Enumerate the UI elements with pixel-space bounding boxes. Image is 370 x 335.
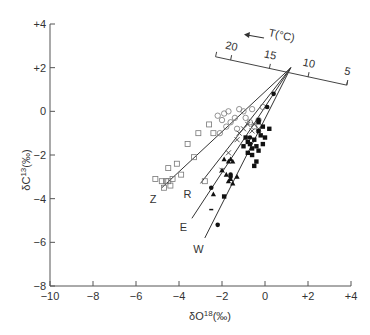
- cross-marker: [237, 131, 242, 136]
- trend-line-label-z: Z: [150, 193, 157, 205]
- open-circle-marker: [215, 113, 220, 118]
- y-tick-label: −8: [33, 280, 46, 292]
- temperature-scale-label: 15: [263, 47, 278, 61]
- filled-square-marker: [250, 153, 254, 157]
- filled-square-marker: [252, 164, 256, 168]
- filled-triangle-marker: [234, 174, 239, 179]
- x-tick-label: 0: [262, 290, 268, 302]
- x-tick-label: −8: [87, 290, 100, 302]
- temperature-scale-tick: [308, 72, 309, 77]
- trend-line-e: [192, 68, 291, 219]
- filled-square-marker: [246, 151, 250, 155]
- open-circle-marker: [243, 115, 248, 120]
- cross-marker: [235, 137, 240, 142]
- y-tick-label: 0: [40, 105, 46, 117]
- filled-square-marker: [256, 129, 260, 133]
- filled-square-marker: [252, 138, 256, 142]
- x-tick-label: −6: [130, 290, 143, 302]
- filled-square-marker: [267, 127, 271, 131]
- y-tick-label: −2: [33, 149, 46, 161]
- temperature-scale-tick: [231, 55, 232, 60]
- cross-marker: [250, 128, 255, 133]
- x-tick-label: +2: [302, 290, 315, 302]
- filled-square-marker: [261, 142, 265, 146]
- data-points: [153, 92, 276, 228]
- temperature-scale-label: 10: [302, 56, 317, 70]
- y-tick-label: +4: [33, 18, 46, 30]
- filled-square-marker: [250, 146, 254, 150]
- filled-square-marker: [254, 159, 258, 163]
- y-tick-label: −4: [33, 193, 46, 205]
- filled-circle-marker: [215, 223, 220, 228]
- open-square-marker: [179, 172, 184, 177]
- filled-square-marker: [261, 124, 265, 128]
- x-axis-label: δO18(‰): [189, 309, 231, 322]
- open-square-marker: [207, 122, 212, 127]
- open-square-marker: [185, 142, 190, 147]
- temperature-arrow-head: [244, 32, 250, 38]
- open-square-marker: [211, 131, 216, 136]
- cross-marker: [226, 150, 231, 155]
- filled-square-marker: [248, 142, 252, 146]
- temperature-arrow-shaft: [247, 35, 264, 38]
- y-tick-label: +2: [33, 62, 46, 74]
- filled-square-marker: [254, 144, 258, 148]
- filled-square-marker: [241, 144, 245, 148]
- filled-circle-marker: [209, 185, 214, 190]
- open-square-marker: [166, 166, 171, 171]
- y-tick-label: −6: [33, 236, 46, 248]
- filled-square-marker: [243, 135, 247, 139]
- trend-lines: ZREW: [150, 68, 291, 255]
- filled-square-marker: [263, 135, 267, 139]
- filled-circle-marker: [248, 135, 253, 140]
- temperature-scale-label: 20: [224, 39, 239, 53]
- trend-line-label-w: W: [193, 243, 204, 255]
- x-tick-label: +4: [345, 290, 358, 302]
- filled-circle-marker: [265, 105, 270, 110]
- temperature-scale-endcap: [216, 52, 217, 57]
- filled-square-marker: [259, 133, 263, 137]
- trend-line-label-e: E: [180, 221, 187, 233]
- open-square-marker: [153, 177, 158, 182]
- open-circle-marker: [249, 106, 254, 111]
- filled-triangle-marker: [211, 192, 216, 197]
- temperature-scale-label: 5: [343, 65, 352, 78]
- filled-circle-marker: [256, 118, 261, 123]
- scatter-chart: −10−8−6−4−20+2+4+4+20−2−4−6−8 ZREW 20151…: [0, 0, 370, 335]
- trend-line-r: [201, 68, 291, 184]
- y-axis-label: δC13(‰): [19, 149, 32, 190]
- open-circle-marker: [226, 109, 231, 114]
- cross-marker: [241, 126, 246, 131]
- trend-line-label-r: R: [184, 188, 192, 200]
- filled-square-marker: [256, 148, 260, 152]
- temperature-scale-tick: [347, 80, 348, 85]
- filled-triangle-marker: [222, 157, 227, 162]
- temperature-label: T(°C): [268, 26, 296, 43]
- x-tick-label: −4: [173, 290, 186, 302]
- temperature-scale-tick: [269, 64, 270, 69]
- open-square-marker: [174, 161, 179, 166]
- open-circle-marker: [219, 117, 224, 122]
- x-tick-label: −2: [216, 290, 229, 302]
- filled-circle-marker: [271, 92, 276, 97]
- open-square-marker: [196, 131, 201, 136]
- filled-square-marker: [222, 194, 226, 198]
